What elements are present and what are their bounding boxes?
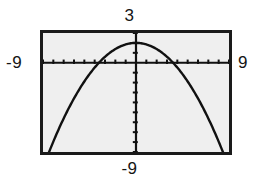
y-axis-min-label: -9 <box>0 160 259 177</box>
y-axis-group <box>133 33 138 152</box>
y-axis-max-label: 3 <box>0 7 259 24</box>
calculator-screen: 3 -9 9 -9 <box>0 0 259 183</box>
x-axis-min-label: -9 <box>6 54 22 71</box>
x-axis-max-label: 9 <box>238 54 248 71</box>
plot-canvas <box>43 33 229 152</box>
plot-frame <box>40 30 232 155</box>
